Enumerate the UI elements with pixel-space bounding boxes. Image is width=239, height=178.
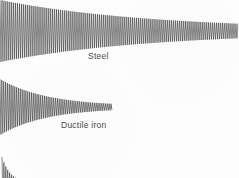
trace-high-damping — [0, 0, 239, 178]
trace-label-ductile-iron: Ductile iron — [61, 121, 107, 130]
decay-waveform-path — [2, 157, 26, 178]
trace-steel — [0, 0, 239, 178]
decay-waveform-path — [0, 0, 238, 62]
trace-high-damping-svg — [0, 0, 239, 178]
damped-vibration-figure: Steel Ductile iron — [0, 0, 239, 178]
trace-label-steel: Steel — [88, 52, 109, 61]
trace-ductile-iron — [0, 0, 239, 178]
trace-steel-svg — [0, 0, 239, 178]
scan-grain-overlay — [0, 0, 239, 178]
trace-ductile-iron-svg — [0, 0, 239, 178]
